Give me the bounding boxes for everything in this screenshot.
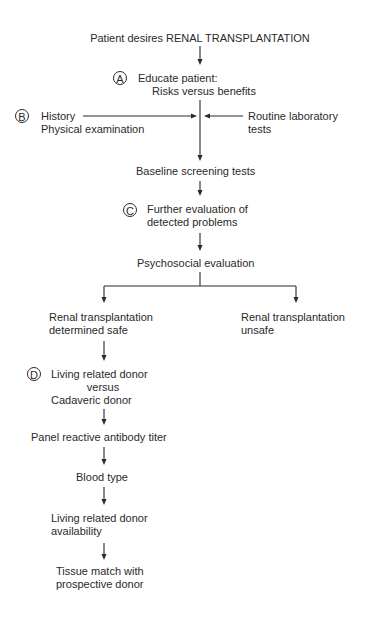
psychosocial-evaluation: Psychosocial evaluation [137, 257, 254, 270]
donor-type-line3: Cadaveric donor [51, 394, 132, 407]
lrd-availability-line2: availability [51, 525, 102, 538]
arrowhead [198, 190, 203, 196]
arrowhead [102, 355, 107, 361]
further-eval-line1: Further evaluation of [147, 203, 248, 216]
blood-type: Blood type [76, 471, 128, 484]
lrd-availability-line1: Living related donor [51, 512, 148, 525]
educate-line2: Risks versus benefits [152, 85, 256, 98]
donor-type-line2: versus [51, 381, 155, 394]
history-line1: History [41, 110, 75, 123]
step-badge-a: A [113, 71, 127, 85]
history-line2: Physical examination [41, 123, 144, 136]
safe-line1: Renal transplantation [49, 311, 153, 324]
baseline-screening: Baseline screening tests [136, 165, 255, 178]
further-eval-line2: detected problems [147, 216, 238, 229]
arrowhead [102, 419, 107, 425]
arrowhead [198, 245, 203, 251]
unsafe-line2: unsafe [241, 324, 274, 337]
arrowhead [102, 554, 107, 560]
step-badge-b: B [15, 109, 29, 123]
panel-reactive-antibody: Panel reactive antibody titer [31, 431, 167, 444]
step-badge-d: D [27, 367, 41, 381]
tissue-match-line2: prospective donor [56, 578, 143, 591]
tissue-match-line1: Tissue match with [56, 565, 144, 578]
unsafe-line1: Renal transplantation [241, 311, 345, 324]
arrowhead [204, 114, 210, 119]
arrowhead [102, 459, 107, 465]
safe-line2: determined safe [49, 324, 128, 337]
arrowhead [191, 114, 197, 119]
arrowhead [102, 297, 107, 303]
diagram-title: Patient desires RENAL TRANSPLANTATION [0, 32, 379, 45]
educate-line1: Educate patient: [138, 72, 218, 85]
routine-lab-line2: tests [248, 123, 271, 136]
arrowhead [102, 499, 107, 505]
arrowhead [198, 155, 203, 161]
routine-lab-line1: Routine laboratory [248, 110, 338, 123]
step-badge-c: C [123, 203, 137, 217]
arrowhead [198, 59, 203, 65]
arrowhead [294, 297, 299, 303]
donor-type-line1: Living related donor [51, 368, 148, 381]
